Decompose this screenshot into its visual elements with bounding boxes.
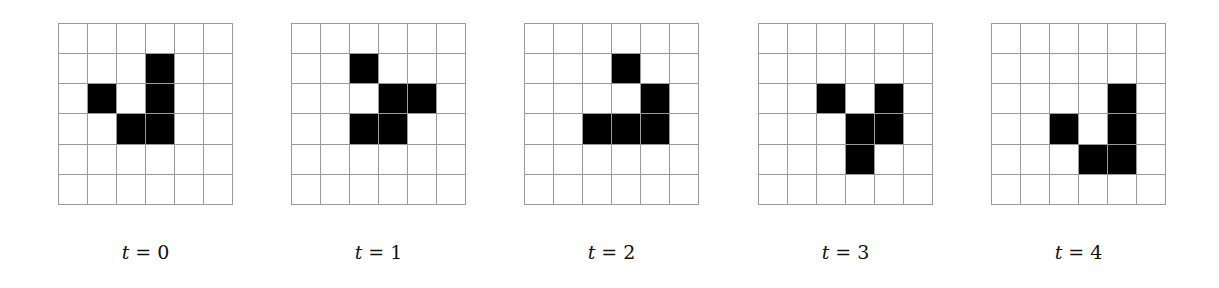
- dead-cell: [788, 114, 817, 144]
- dead-cell: [670, 114, 699, 144]
- cell-grid: [991, 23, 1166, 205]
- time-value: 2: [623, 241, 635, 263]
- alive-cell: [1108, 84, 1137, 114]
- alive-cell: [408, 84, 437, 114]
- dead-cell: [1108, 24, 1137, 54]
- time-value: 1: [390, 241, 402, 263]
- alive-cell: [875, 114, 904, 144]
- dead-cell: [175, 114, 204, 144]
- dead-cell: [904, 114, 933, 144]
- equals-sign: =: [595, 241, 623, 263]
- dead-cell: [350, 175, 379, 205]
- alive-cell: [612, 114, 641, 144]
- dead-cell: [875, 24, 904, 54]
- alive-cell: [146, 54, 175, 84]
- dead-cell: [670, 145, 699, 175]
- cell-grid: [524, 23, 699, 205]
- dead-cell: [759, 24, 788, 54]
- dead-cell: [992, 114, 1021, 144]
- dead-cell: [817, 114, 846, 144]
- alive-cell: [1108, 145, 1137, 175]
- dead-cell: [904, 84, 933, 114]
- dead-cell: [992, 24, 1021, 54]
- dead-cell: [59, 84, 88, 114]
- dead-cell: [875, 145, 904, 175]
- dead-cell: [379, 24, 408, 54]
- dead-cell: [554, 24, 583, 54]
- dead-cell: [583, 24, 612, 54]
- dead-cell: [117, 24, 146, 54]
- dead-cell: [1050, 24, 1079, 54]
- dead-cell: [321, 54, 350, 84]
- time-label: t = 4: [991, 241, 1166, 263]
- alive-cell: [846, 114, 875, 144]
- dead-cell: [641, 24, 670, 54]
- equals-sign: =: [362, 241, 390, 263]
- dead-cell: [1079, 84, 1108, 114]
- dead-cell: [641, 145, 670, 175]
- dead-cell: [292, 175, 321, 205]
- dead-cell: [321, 175, 350, 205]
- dead-cell: [788, 84, 817, 114]
- time-label: t = 2: [524, 241, 699, 263]
- dead-cell: [146, 24, 175, 54]
- panel-t1: t = 1: [291, 23, 466, 205]
- dead-cell: [1021, 145, 1050, 175]
- dead-cell: [1137, 114, 1166, 144]
- dead-cell: [1137, 145, 1166, 175]
- dead-cell: [1021, 24, 1050, 54]
- time-label: t = 0: [58, 241, 233, 263]
- dead-cell: [525, 114, 554, 144]
- dead-cell: [992, 145, 1021, 175]
- dead-cell: [1021, 54, 1050, 84]
- dead-cell: [175, 24, 204, 54]
- dead-cell: [408, 24, 437, 54]
- dead-cell: [292, 145, 321, 175]
- dead-cell: [788, 24, 817, 54]
- dead-cell: [554, 114, 583, 144]
- dead-cell: [670, 24, 699, 54]
- dead-cell: [437, 54, 466, 84]
- dead-cell: [437, 114, 466, 144]
- dead-cell: [59, 145, 88, 175]
- dead-cell: [788, 145, 817, 175]
- dead-cell: [321, 145, 350, 175]
- dead-cell: [612, 24, 641, 54]
- alive-cell: [612, 54, 641, 84]
- dead-cell: [408, 175, 437, 205]
- dead-cell: [350, 145, 379, 175]
- dead-cell: [817, 175, 846, 205]
- dead-cell: [1050, 145, 1079, 175]
- dead-cell: [204, 84, 233, 114]
- dead-cell: [846, 175, 875, 205]
- dead-cell: [175, 84, 204, 114]
- dead-cell: [1137, 84, 1166, 114]
- dead-cell: [759, 84, 788, 114]
- alive-cell: [641, 84, 670, 114]
- dead-cell: [641, 175, 670, 205]
- dead-cell: [204, 24, 233, 54]
- dead-cell: [817, 24, 846, 54]
- dead-cell: [117, 84, 146, 114]
- alive-cell: [350, 54, 379, 84]
- dead-cell: [554, 175, 583, 205]
- dead-cell: [88, 114, 117, 144]
- dead-cell: [525, 175, 554, 205]
- panel-t0: t = 0: [58, 23, 233, 205]
- dead-cell: [1079, 54, 1108, 84]
- dead-cell: [788, 54, 817, 84]
- dead-cell: [525, 24, 554, 54]
- dead-cell: [350, 24, 379, 54]
- dead-cell: [1050, 175, 1079, 205]
- dead-cell: [1137, 175, 1166, 205]
- panel-t2: t = 2: [524, 23, 699, 205]
- cell-grid: [758, 23, 933, 205]
- dead-cell: [759, 145, 788, 175]
- dead-cell: [59, 54, 88, 84]
- dead-cell: [759, 175, 788, 205]
- dead-cell: [817, 145, 846, 175]
- dead-cell: [117, 175, 146, 205]
- dead-cell: [583, 84, 612, 114]
- dead-cell: [904, 24, 933, 54]
- dead-cell: [525, 145, 554, 175]
